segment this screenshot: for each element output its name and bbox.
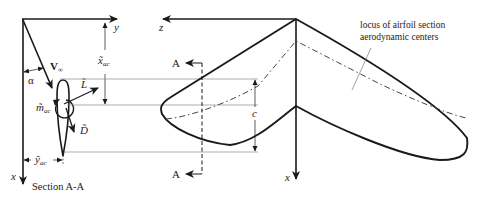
projection-lines <box>60 79 258 152</box>
annotation-leader <box>352 48 371 90</box>
section-marker-top: A <box>172 57 180 69</box>
moment-arc <box>56 100 74 118</box>
section-x-axis-label: x <box>10 170 16 182</box>
section-caption: Section A-A <box>32 181 85 192</box>
annotation-line-2: aerodynamic centers <box>360 32 439 42</box>
wing-diagram: y x V∞ α m̃ac L̃ D̃ x̃ac <box>0 0 481 201</box>
annotation-line-1: locus of airfoil section <box>360 20 445 30</box>
alpha-label: α <box>28 74 34 86</box>
ac-locus-line <box>166 41 466 119</box>
section-view: y x V∞ α m̃ac L̃ D̃ x̃ac <box>10 19 119 192</box>
section-y-axis-label: y <box>113 21 119 33</box>
planform-view: z x locus of airfoil section aerodynamic… <box>158 19 467 183</box>
moment-label: m̃ac <box>36 101 51 115</box>
lift-label: L̃ <box>80 78 87 90</box>
section-marker-bottom: A <box>172 168 180 180</box>
drag-label: D̃ <box>79 124 88 136</box>
planform-z-axis-label: z <box>158 21 164 33</box>
freestream-velocity-label: V∞ <box>50 60 63 74</box>
planform-x-axis-label: x <box>284 171 290 183</box>
alpha-dimension <box>24 68 43 72</box>
chord-label: c <box>252 107 257 119</box>
